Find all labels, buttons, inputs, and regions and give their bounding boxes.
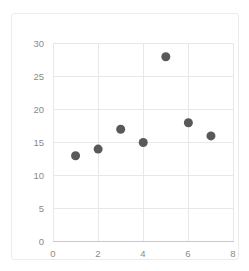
x-tick-label: 0 <box>50 248 55 259</box>
data-point <box>94 145 103 154</box>
y-tick-label: 25 <box>33 71 44 82</box>
y-tick-label: 15 <box>33 137 44 148</box>
scatter-chart-card: 30 25 20 15 10 5 0 0 <box>11 13 239 260</box>
data-point <box>71 151 80 160</box>
x-axis-tick-labels: 0 2 4 6 8 <box>50 248 235 259</box>
x-tick-label: 4 <box>140 248 145 259</box>
data-point <box>184 118 193 127</box>
x-tick-label: 6 <box>185 248 190 259</box>
data-point <box>161 52 170 61</box>
data-point <box>116 125 125 134</box>
data-point <box>139 138 148 147</box>
x-tick-label: 2 <box>95 248 100 259</box>
scatter-plot: 30 25 20 15 10 5 0 0 <box>12 14 238 259</box>
y-tick-label: 5 <box>39 203 44 214</box>
y-axis-tick-labels: 30 25 20 15 10 5 0 <box>33 38 44 247</box>
data-point <box>206 131 215 140</box>
y-tick-label: 20 <box>33 104 44 115</box>
y-tick-label: 30 <box>33 38 44 49</box>
x-tick-label: 8 <box>230 248 235 259</box>
y-tick-label: 10 <box>33 170 44 181</box>
y-tick-label: 0 <box>39 236 44 247</box>
